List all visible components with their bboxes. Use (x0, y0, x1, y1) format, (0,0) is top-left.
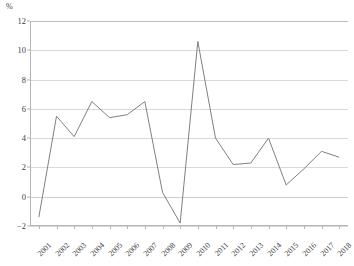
x-axis-tick-label: 2011 (213, 241, 230, 258)
x-axis-tick-label: 2004 (89, 241, 106, 258)
x-axis-tick-mark (57, 226, 58, 229)
x-axis-tick-label: 2016 (301, 241, 318, 258)
x-axis-tick-mark (286, 226, 287, 229)
plot-area: 121086420−2 2001200220032004200520062007… (30, 21, 348, 226)
x-axis-tick-label: 2007 (142, 241, 159, 258)
y-axis-tick-label: 2 (22, 163, 26, 172)
x-axis-tick-mark (74, 226, 75, 229)
y-axis-tick-label: 0 (22, 192, 26, 201)
x-axis-tick-label: 2003 (72, 241, 89, 258)
x-axis-tick-mark (251, 226, 252, 229)
y-axis-tick-label: 10 (18, 46, 27, 55)
x-axis-tick-mark (198, 226, 199, 229)
x-axis-tick-label: 2015 (284, 241, 301, 258)
x-axis-tick-mark (216, 226, 217, 229)
x-axis-tick-label: 2001 (36, 241, 53, 258)
y-axis-tick-label: 4 (22, 134, 26, 143)
x-axis-tick-mark (233, 226, 234, 229)
x-axis-tick-mark (180, 226, 181, 229)
x-axis-tick-label: 2010 (195, 241, 212, 258)
x-axis-tick-mark (322, 226, 323, 229)
y-axis-unit-label: % (6, 2, 13, 11)
x-axis-tick-label: 2018 (337, 241, 354, 258)
x-axis-tick-mark (269, 226, 270, 229)
x-axis-tick-label: 2002 (54, 241, 71, 258)
x-axis-tick-mark (339, 226, 340, 229)
series-line (30, 21, 348, 226)
x-axis-tick-label: 2012 (231, 241, 248, 258)
y-axis-tick-label: −2 (17, 222, 26, 231)
line-chart: % 121086420−2 20012002200320042005200620… (0, 0, 354, 266)
x-axis-tick-mark (304, 226, 305, 229)
x-axis-tick-label: 2008 (160, 241, 177, 258)
x-axis-tick-mark (110, 226, 111, 229)
x-axis-tick-label: 2014 (266, 241, 283, 258)
y-axis-tick-label: 6 (22, 105, 26, 114)
x-axis-tick-label: 2006 (125, 241, 142, 258)
y-axis-tick-label: 12 (18, 17, 27, 26)
gridline (30, 226, 348, 227)
x-axis-tick-mark (39, 226, 40, 229)
x-axis-tick-mark (127, 226, 128, 229)
x-axis-tick-label: 2013 (248, 241, 265, 258)
x-axis-tick-label: 2005 (107, 241, 124, 258)
x-axis-tick-label: 2009 (178, 241, 195, 258)
y-axis-tick-label: 8 (22, 75, 26, 84)
x-axis-tick-mark (92, 226, 93, 229)
x-axis-tick-label: 2017 (319, 241, 336, 258)
x-axis-tick-mark (145, 226, 146, 229)
x-axis-tick-mark (163, 226, 164, 229)
